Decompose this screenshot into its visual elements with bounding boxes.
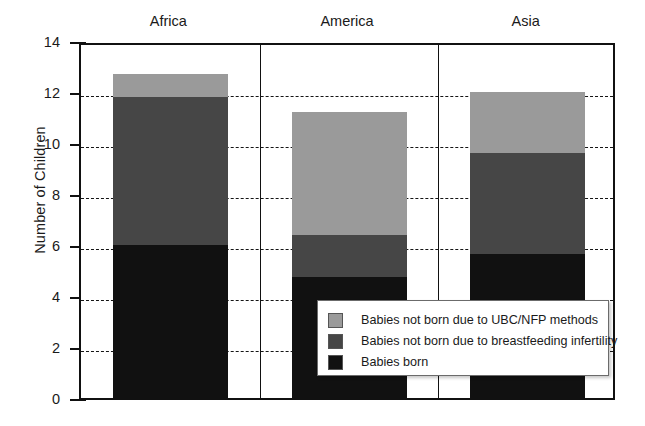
chart-legend: Babies not born due to UBC/NFP methodsBa… [317, 300, 609, 376]
legend-label: Babies not born due to breastfeeding inf… [361, 335, 617, 348]
bar-segment [113, 74, 228, 97]
y-axis-tick-label: 14 [16, 35, 60, 50]
bar-segment [292, 235, 407, 277]
panel-title-africa: Africa [79, 14, 258, 29]
bar-africa [113, 74, 228, 398]
y-axis-tick-label: 12 [16, 86, 60, 101]
legend-swatch [328, 355, 343, 370]
bar-segment [113, 245, 228, 398]
legend-swatch [328, 313, 343, 328]
legend-swatch [328, 334, 343, 349]
bar-segment [470, 92, 585, 153]
legend-item: Babies not born due to breastfeeding inf… [328, 332, 617, 350]
y-axis-tick-label: 10 [16, 137, 60, 152]
panel-title-asia: Asia [436, 14, 615, 29]
chart-figure: Number of Children 02468101214 AfricaAme… [0, 0, 645, 426]
bar-segment [292, 112, 407, 234]
y-axis-tick-label: 4 [16, 290, 60, 305]
y-axis-tick-label: 8 [16, 188, 60, 203]
legend-item: Babies born [328, 353, 428, 371]
bar-segment [113, 97, 228, 245]
panel-title-america: America [258, 14, 437, 29]
y-axis-tick-label: 6 [16, 239, 60, 254]
bar-segment [470, 153, 585, 254]
y-axis-tick-label: 0 [16, 392, 60, 407]
legend-label: Babies not born due to UBC/NFP methods [361, 314, 598, 327]
legend-label: Babies born [361, 356, 428, 369]
panel-separator [260, 45, 261, 398]
legend-item: Babies not born due to UBC/NFP methods [328, 311, 598, 329]
y-axis-tick-label: 2 [16, 341, 60, 356]
